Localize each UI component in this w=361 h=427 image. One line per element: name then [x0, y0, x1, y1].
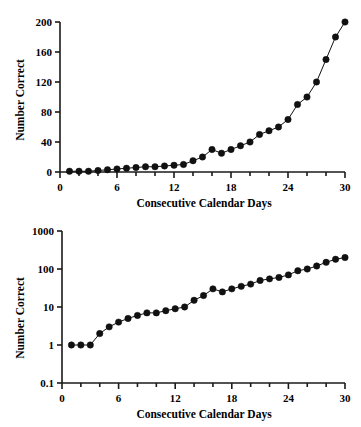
log-axes: 0.111010010000612182430: [32, 225, 351, 404]
y-tick-label: 10: [43, 301, 55, 313]
data-point: [163, 307, 169, 313]
data-point: [161, 163, 167, 169]
data-point: [104, 167, 110, 173]
log-y-axis-title: Number Correct: [14, 277, 26, 359]
x-tick-label: 12: [170, 392, 182, 404]
data-point: [133, 164, 139, 170]
data-point: [66, 168, 72, 174]
data-point: [304, 266, 310, 272]
data-point: [285, 272, 291, 278]
linear-axes: 040801201602000612182430: [36, 16, 352, 193]
data-point: [314, 263, 320, 269]
data-point: [171, 162, 177, 168]
data-point: [97, 330, 103, 336]
data-point: [95, 167, 101, 173]
data-point: [191, 297, 197, 303]
data-point: [342, 19, 348, 25]
x-tick-label: 18: [226, 392, 238, 404]
data-point: [78, 342, 84, 348]
data-point: [294, 101, 300, 107]
data-point: [323, 259, 329, 265]
y-tick-label: 0.1: [40, 377, 54, 389]
x-tick-label: 12: [169, 181, 181, 193]
data-point: [87, 342, 93, 348]
log-data-series: [68, 254, 348, 348]
y-tick-label: 1000: [32, 225, 55, 237]
data-point: [199, 154, 205, 160]
data-point: [209, 146, 215, 152]
figure-container: 040801201602000612182430 Number Correct …: [0, 0, 361, 427]
x-tick-label: 24: [283, 392, 295, 404]
linear-y-axis-title: Number Correct: [14, 59, 26, 141]
data-point: [152, 164, 158, 170]
data-point: [85, 168, 91, 174]
data-point: [123, 165, 129, 171]
y-tick-label: 1: [49, 339, 55, 351]
y-tick-label: 100: [38, 263, 55, 275]
data-point: [295, 268, 301, 274]
data-point: [125, 315, 131, 321]
data-point: [114, 166, 120, 172]
linear-x-axis-title: Consecutive Calendar Days: [136, 197, 272, 210]
data-point: [238, 283, 244, 289]
data-point: [115, 319, 121, 325]
data-point: [332, 34, 338, 40]
data-point: [237, 143, 243, 149]
data-point: [257, 277, 263, 283]
data-point: [210, 286, 216, 292]
x-tick-label: 30: [340, 181, 352, 193]
x-tick-label: 30: [340, 392, 352, 404]
panel-linear: 040801201602000612182430 Number Correct …: [0, 0, 361, 213]
data-point: [313, 79, 319, 85]
x-tick-label: 6: [116, 392, 122, 404]
data-point: [247, 281, 253, 287]
data-point: [68, 342, 74, 348]
series-line: [71, 258, 345, 345]
data-point: [106, 324, 112, 330]
data-point: [219, 289, 225, 295]
data-point: [342, 254, 348, 260]
linear-plot-canvas: 040801201602000612182430 Number Correct …: [0, 0, 361, 213]
data-point: [76, 168, 82, 174]
data-point: [200, 292, 206, 298]
data-point: [266, 276, 272, 282]
data-point: [275, 124, 281, 130]
y-tick-label: 200: [36, 16, 53, 28]
data-point: [153, 310, 159, 316]
data-point: [247, 139, 253, 145]
log-x-axis-title: Consecutive Calendar Days: [136, 408, 272, 421]
x-tick-label: 24: [283, 181, 295, 193]
data-point: [190, 158, 196, 164]
linear-data-series: [66, 19, 348, 175]
data-point: [134, 312, 140, 318]
x-tick-label: 0: [57, 181, 63, 193]
data-point: [304, 94, 310, 100]
data-point: [332, 256, 338, 262]
y-tick-label: 160: [36, 46, 53, 58]
data-point: [229, 286, 235, 292]
data-point: [144, 310, 150, 316]
y-tick-label: 80: [41, 106, 53, 118]
data-point: [285, 116, 291, 122]
y-tick-label: 120: [36, 76, 53, 88]
data-point: [256, 131, 262, 137]
data-point: [276, 274, 282, 280]
data-point: [323, 56, 329, 62]
x-tick-label: 18: [226, 181, 238, 193]
x-tick-label: 6: [114, 181, 120, 193]
data-point: [266, 128, 272, 134]
data-point: [180, 161, 186, 167]
data-point: [172, 306, 178, 312]
panel-log: 0.111010010000612182430 Number Correct C…: [0, 213, 361, 426]
log-plot-canvas: 0.111010010000612182430 Number Correct C…: [0, 213, 361, 426]
data-point: [181, 304, 187, 310]
data-point: [218, 150, 224, 156]
y-tick-label: 0: [47, 166, 53, 178]
x-tick-label: 0: [59, 392, 65, 404]
data-point: [142, 164, 148, 170]
data-point: [228, 146, 234, 152]
y-tick-label: 40: [41, 136, 53, 148]
